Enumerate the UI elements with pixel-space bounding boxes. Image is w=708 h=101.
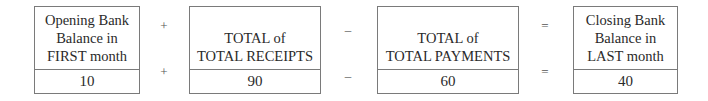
box-label: TOTAL of TOTAL PAYMENTS (378, 7, 518, 69)
label-line: Balance in (45, 29, 129, 47)
box-label: Closing Bank Balance in LAST month (574, 7, 677, 69)
label-line: TOTAL of (197, 29, 313, 47)
box-closing-balance: Closing Bank Balance in LAST month 40 (573, 6, 678, 94)
box-opening-balance: Opening Bank Balance in FIRST month 10 (34, 6, 140, 94)
minus-operator-bottom: – (338, 68, 358, 84)
box-value: 10 (35, 70, 139, 93)
label-line: Balance in (586, 29, 665, 47)
box-value: 60 (378, 70, 518, 93)
box-label: Opening Bank Balance in FIRST month (35, 7, 139, 69)
label-line: Closing Bank (586, 11, 665, 29)
plus-operator-top: + (154, 18, 174, 34)
label-line: TOTAL RECEIPTS (197, 47, 313, 65)
equals-operator-top: = (535, 18, 555, 34)
box-label: TOTAL of TOTAL RECEIPTS (190, 7, 320, 69)
equals-operator-bottom: = (535, 64, 555, 80)
plus-operator-bottom: + (154, 64, 174, 80)
minus-operator-top: – (338, 22, 358, 38)
label-line: Opening Bank (45, 11, 129, 29)
label-line: TOTAL of (386, 29, 511, 47)
label-line: LAST month (586, 47, 665, 65)
box-value: 40 (574, 70, 677, 93)
label-line: TOTAL PAYMENTS (386, 47, 511, 65)
label-line: FIRST month (45, 47, 129, 65)
box-total-receipts: TOTAL of TOTAL RECEIPTS 90 (189, 6, 321, 94)
box-value: 90 (190, 70, 320, 93)
box-total-payments: TOTAL of TOTAL PAYMENTS 60 (377, 6, 519, 94)
